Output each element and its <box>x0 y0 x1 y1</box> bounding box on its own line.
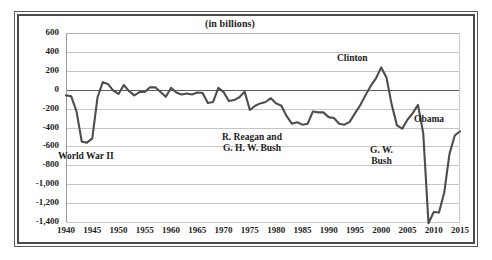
y-axis-tick-label: -1,200 <box>13 198 59 207</box>
y-axis-tick-label: -1,400 <box>13 217 59 226</box>
plot-wrapper: (in billions) 6004002000-200-400-600-800… <box>0 0 492 260</box>
y-axis-tick-label: -600 <box>13 141 59 150</box>
y-axis-tick-label: -800 <box>13 160 59 169</box>
y-axis-tick-label: -1,000 <box>13 179 59 188</box>
y-axis-tick-label: 400 <box>13 47 59 56</box>
figure-container: (in billions) 6004002000-200-400-600-800… <box>0 0 492 260</box>
y-axis-tick-label: 0 <box>13 85 59 94</box>
x-axis-tick-label: 2015 <box>443 226 477 235</box>
data-series-line <box>66 33 460 222</box>
annotation-wwii: World War II <box>58 151 114 162</box>
annotation-gw-bush: G. W. Bush <box>370 145 393 167</box>
annotation-obama: Obama <box>414 114 444 125</box>
annotation-reagan-bush: R. Reagan and G. H. W. Bush <box>222 132 282 154</box>
gridline <box>66 222 460 223</box>
y-axis-tick-label: 600 <box>13 28 59 37</box>
annotation-clinton: Clinton <box>337 53 368 64</box>
y-axis-tick-label: -200 <box>13 104 59 113</box>
y-axis-tick-label: -400 <box>13 123 59 132</box>
chart-title: (in billions) <box>150 18 310 29</box>
y-axis-tick-label: 200 <box>13 66 59 75</box>
